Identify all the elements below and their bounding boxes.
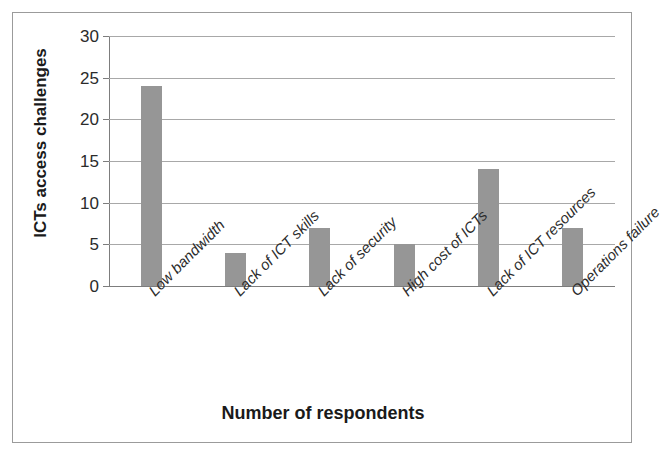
- gridline: [109, 161, 615, 162]
- y-axis-tick-label: 25: [65, 69, 99, 86]
- gridline: [109, 203, 615, 204]
- x-axis-title: Number of respondents: [13, 403, 633, 424]
- gridline: [109, 36, 615, 37]
- bar: [141, 86, 162, 286]
- y-axis-tick-label: 5: [65, 236, 99, 253]
- gridline: [109, 78, 615, 79]
- y-axis-tick-label: 20: [65, 111, 99, 128]
- y-axis-tick-mark: [103, 119, 109, 120]
- y-axis-tick-mark: [103, 244, 109, 245]
- y-axis-tick-label: 15: [65, 153, 99, 170]
- y-axis-tick-mark: [103, 161, 109, 162]
- y-axis-tick-mark: [103, 36, 109, 37]
- y-axis-title: ICTs access challenges: [31, 43, 51, 243]
- gridline: [109, 119, 615, 120]
- figure-frame: ICTs access challenges 051015202530 Low …: [12, 12, 632, 443]
- y-axis-tick-label: 10: [65, 194, 99, 211]
- y-axis-tick-mark: [103, 78, 109, 79]
- y-axis-tick-label: 30: [65, 28, 99, 45]
- y-axis-tick-mark: [103, 286, 109, 287]
- y-axis-tick-label: 0: [65, 278, 99, 295]
- y-axis-tick-labels: 051015202530: [57, 36, 99, 286]
- y-axis-tick-mark: [103, 203, 109, 204]
- x-axis-tick-labels: Low bandwidthLack of ICT skillsLack of s…: [109, 287, 615, 397]
